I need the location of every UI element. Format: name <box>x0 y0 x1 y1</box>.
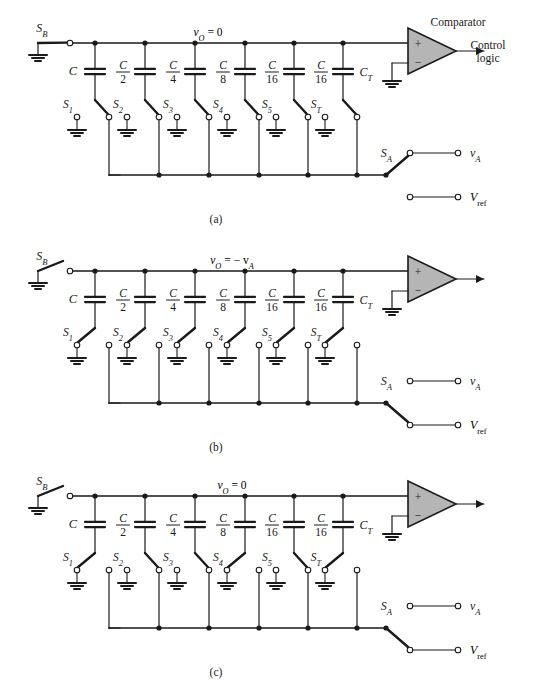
switch-4-ref-terminal[interactable] <box>256 567 262 573</box>
switch-3-ref-terminal[interactable] <box>206 114 212 120</box>
capacitor-value-text: C <box>69 517 78 531</box>
switch-3-ground-terminal[interactable] <box>174 567 180 573</box>
capacitor-value-1: C <box>69 517 78 531</box>
capacitor-value-numerator: C <box>219 512 227 524</box>
switch-5-ref-terminal[interactable] <box>305 114 311 120</box>
capacitor-value-numerator: C <box>219 287 227 299</box>
capacitor-value-denominator: 2 <box>120 73 126 85</box>
capacitor-value-numerator: C <box>169 287 177 299</box>
capacitor-value-numerator: C <box>119 512 127 524</box>
vref-output-terminal[interactable] <box>455 194 461 200</box>
capacitor-value-numerator: C <box>169 59 177 71</box>
capacitor-value-numerator: C <box>219 59 227 71</box>
capacitor-value-denominator: 8 <box>220 301 226 313</box>
capacitor-value-numerator: C <box>317 512 325 524</box>
switch-3-ground-terminal[interactable] <box>174 114 180 120</box>
switch-1-ref-terminal[interactable] <box>106 567 112 573</box>
capacitor-value-denominator: 16 <box>266 526 278 538</box>
capacitor-value-denominator: 16 <box>315 526 327 538</box>
switch-3-ground-terminal[interactable] <box>174 342 180 348</box>
comparator-plus-sign: + <box>415 266 422 278</box>
switch-4-ref-terminal[interactable] <box>256 114 262 120</box>
switch-2-ground-terminal[interactable] <box>124 567 130 573</box>
control-logic-label-line1: Control <box>470 39 505 51</box>
capacitor-value-1: C <box>69 292 78 306</box>
capacitor-value-denominator: 4 <box>170 301 176 313</box>
panel-caption-a: (a) <box>210 213 223 226</box>
switch-1-ref-terminal[interactable] <box>106 342 112 348</box>
switch-1-ground-terminal[interactable] <box>74 342 80 348</box>
capacitor-value-numerator: C <box>169 512 177 524</box>
switch-5-ground-terminal[interactable] <box>273 567 279 573</box>
switch-4-ground-terminal[interactable] <box>224 567 230 573</box>
comparator-minus-sign: − <box>415 56 422 68</box>
capacitor-value-denominator: 2 <box>120 526 126 538</box>
capacitor-value-denominator: 4 <box>170 73 176 85</box>
switch-6-ground-terminal[interactable] <box>322 114 328 120</box>
switch-6-ground-terminal[interactable] <box>322 567 328 573</box>
switch-1-ground-terminal[interactable] <box>74 114 80 120</box>
comparator-plus-sign: + <box>415 491 422 503</box>
switch-4-ground-terminal[interactable] <box>224 114 230 120</box>
switch-6-ground-terminal[interactable] <box>322 342 328 348</box>
switch-6-ref-terminal[interactable] <box>354 567 360 573</box>
capacitor-value-text: C <box>69 292 78 306</box>
va-output-terminal[interactable] <box>455 150 461 156</box>
switch-6-ref-terminal[interactable] <box>354 114 360 120</box>
sb-right-terminal[interactable] <box>67 40 73 46</box>
comparator-plus-sign: + <box>415 38 422 50</box>
capacitor-value-numerator: C <box>317 287 325 299</box>
switch-5-ground-terminal[interactable] <box>273 114 279 120</box>
capacitor-value-denominator: 16 <box>266 73 278 85</box>
switch-3-ref-terminal[interactable] <box>206 342 212 348</box>
circuit-diagram: SBvO= 0CS1C2S2C4S3C8S4C16S5C16STCT+−Comp… <box>0 0 541 685</box>
va-output-terminal[interactable] <box>455 603 461 609</box>
capacitor-value-denominator: 8 <box>220 526 226 538</box>
switch-2-ground-terminal[interactable] <box>124 342 130 348</box>
capacitor-value-denominator: 16 <box>266 301 278 313</box>
switch-1-ref-terminal[interactable] <box>106 114 112 120</box>
capacitor-value-denominator: 8 <box>220 73 226 85</box>
switch-1-ground-terminal[interactable] <box>74 567 80 573</box>
sa-va-terminal[interactable] <box>407 378 413 384</box>
switch-4-ref-terminal[interactable] <box>256 342 262 348</box>
switch-2-ground-terminal[interactable] <box>124 114 130 120</box>
vref-output-terminal[interactable] <box>455 422 461 428</box>
va-output-terminal[interactable] <box>455 378 461 384</box>
panel-caption-c: (c) <box>210 666 223 679</box>
switch-2-ref-terminal[interactable] <box>156 567 162 573</box>
capacitor-value-1: C <box>69 64 78 78</box>
comparator-minus-sign: − <box>415 509 422 521</box>
capacitor-value-denominator: 4 <box>170 526 176 538</box>
switch-2-ref-terminal[interactable] <box>156 114 162 120</box>
switch-4-ground-terminal[interactable] <box>224 342 230 348</box>
switch-5-ref-terminal[interactable] <box>305 342 311 348</box>
vref-output-terminal[interactable] <box>455 647 461 653</box>
control-logic-label-line2: logic <box>477 52 500 65</box>
sa-va-terminal[interactable] <box>407 603 413 609</box>
capacitor-value-numerator: C <box>268 59 276 71</box>
capacitor-value-numerator: C <box>268 287 276 299</box>
capacitor-value-numerator: C <box>317 59 325 71</box>
sb-right-terminal[interactable] <box>67 493 73 499</box>
panel-caption-b: (b) <box>209 441 223 454</box>
figure-root: SBvO= 0CS1C2S2C4S3C8S4C16S5C16STCT+−Comp… <box>0 0 541 685</box>
capacitor-value-text: C <box>69 64 78 78</box>
switch-5-ground-terminal[interactable] <box>273 342 279 348</box>
capacitor-value-numerator: C <box>119 59 127 71</box>
comparator-minus-sign: − <box>415 284 422 296</box>
capacitor-value-numerator: C <box>119 287 127 299</box>
capacitor-value-denominator: 16 <box>315 73 327 85</box>
sa-vref-terminal[interactable] <box>407 194 413 200</box>
capacitor-value-numerator: C <box>268 512 276 524</box>
switch-2-ref-terminal[interactable] <box>156 342 162 348</box>
sb-right-terminal[interactable] <box>67 268 73 274</box>
capacitor-value-denominator: 2 <box>120 301 126 313</box>
comparator-title: Comparator <box>431 16 486 29</box>
switch-6-ref-terminal[interactable] <box>354 342 360 348</box>
capacitor-value-denominator: 16 <box>315 301 327 313</box>
switch-3-ref-terminal[interactable] <box>206 567 212 573</box>
switch-5-ref-terminal[interactable] <box>305 567 311 573</box>
